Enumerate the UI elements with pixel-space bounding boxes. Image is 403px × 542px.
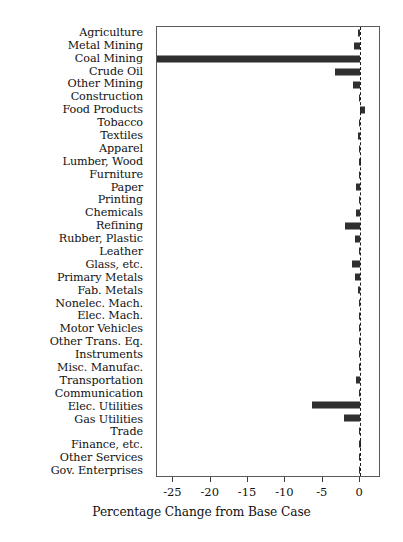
bar-row: [157, 463, 379, 476]
bar-row: [157, 219, 379, 232]
bar-row: [157, 65, 379, 78]
bar-row: [157, 142, 379, 155]
bar-row: [157, 373, 379, 386]
bar-row: [157, 271, 379, 284]
category-label: Food Products: [0, 103, 148, 116]
x-tick-label: -25: [163, 484, 182, 500]
bars-layer: [157, 27, 379, 476]
category-label: Printing: [0, 194, 148, 207]
bar-row: [157, 296, 379, 309]
category-label: Nonelec. Mach.: [0, 297, 148, 310]
category-label: Other Trans. Eq.: [0, 335, 148, 348]
category-label: Other Mining: [0, 78, 148, 91]
bar-row: [157, 258, 379, 271]
bar-row: [157, 450, 379, 463]
category-label: Gas Utilities: [0, 413, 148, 426]
bar-row: [157, 348, 379, 361]
category-label: Primary Metals: [0, 271, 148, 284]
bar: [157, 56, 360, 63]
category-label: Glass, etc.: [0, 258, 148, 271]
bar-row: [157, 27, 379, 40]
category-label: Instruments: [0, 348, 148, 361]
bar: [335, 68, 360, 75]
bar-row: [157, 245, 379, 258]
zero-reference-line: [360, 27, 362, 476]
category-label: Trade: [0, 426, 148, 439]
category-label: Communication: [0, 387, 148, 400]
category-label: Crude Oil: [0, 65, 148, 78]
category-label: Rubber, Plastic: [0, 232, 148, 245]
category-label: Elec. Utilities: [0, 400, 148, 413]
category-axis-labels: AgricultureMetal MiningCoal MiningCrude …: [0, 26, 148, 477]
category-label: Chemicals: [0, 206, 148, 219]
x-tick: [247, 477, 248, 482]
bar-row: [157, 168, 379, 181]
x-tick-label: -20: [200, 484, 219, 500]
bar-row: [157, 130, 379, 143]
category-label: Apparel: [0, 142, 148, 155]
category-label: Misc. Manufac.: [0, 361, 148, 374]
bar-row: [157, 194, 379, 207]
x-tick: [210, 477, 211, 482]
plot-area: [156, 26, 380, 477]
bar-row: [157, 232, 379, 245]
category-label: Motor Vehicles: [0, 322, 148, 335]
bar-row: [157, 399, 379, 412]
x-tick: [172, 477, 173, 482]
bar: [344, 415, 360, 422]
category-label: Gov. Enterprises: [0, 464, 148, 477]
category-label: Tobacco: [0, 116, 148, 129]
bar-row: [157, 309, 379, 322]
x-tick: [284, 477, 285, 482]
x-tick-label: -10: [275, 484, 294, 500]
bar-row: [157, 335, 379, 348]
category-label: Elec. Mach.: [0, 310, 148, 323]
category-label: Paper: [0, 181, 148, 194]
category-label: Metal Mining: [0, 39, 148, 52]
bar-row: [157, 438, 379, 451]
bar-row: [157, 207, 379, 220]
category-label: Leather: [0, 245, 148, 258]
bar-row: [157, 155, 379, 168]
category-label: Refining: [0, 219, 148, 232]
x-axis-title: Percentage Change from Base Case: [0, 505, 403, 519]
category-label: Lumber, Wood: [0, 155, 148, 168]
category-label: Other Services: [0, 451, 148, 464]
x-tick-label: 0: [355, 484, 362, 500]
category-label: Transportation: [0, 374, 148, 387]
bar: [345, 222, 360, 229]
bar-row: [157, 91, 379, 104]
bar-row: [157, 40, 379, 53]
x-axis-tick-labels: -25-20-15-10-50: [136, 484, 400, 500]
category-label: Agriculture: [0, 26, 148, 39]
bar-row: [157, 78, 379, 91]
bar-row: [157, 412, 379, 425]
category-label: Coal Mining: [0, 52, 148, 65]
x-tick-label: -15: [238, 484, 257, 500]
x-tick-label: -5: [316, 484, 327, 500]
bar-row: [157, 181, 379, 194]
bar: [312, 402, 361, 409]
category-label: Finance, etc.: [0, 439, 148, 452]
bar-row: [157, 386, 379, 399]
bar-row: [157, 425, 379, 438]
bar-row: [157, 53, 379, 66]
category-label: Furniture: [0, 168, 148, 181]
bar-row: [157, 361, 379, 374]
x-tick: [322, 477, 323, 482]
x-tick: [359, 477, 360, 482]
category-label: Construction: [0, 90, 148, 103]
bar-chart-figure: AgricultureMetal MiningCoal MiningCrude …: [0, 0, 403, 542]
category-label: Textiles: [0, 129, 148, 142]
category-label: Fab. Metals: [0, 284, 148, 297]
bar-row: [157, 322, 379, 335]
bar-row: [157, 284, 379, 297]
bar-row: [157, 104, 379, 117]
bar-row: [157, 117, 379, 130]
